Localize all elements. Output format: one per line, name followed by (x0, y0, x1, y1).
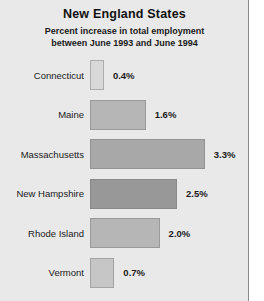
bar-category-label: New Hampshire (0, 174, 84, 214)
chart-subtitle-line-1: Percent increase in total employment (0, 26, 249, 38)
bar-category-label: Maine (0, 95, 84, 135)
bar-value-label: 3.3% (214, 134, 236, 174)
bar-value-label: 0.7% (123, 253, 145, 293)
bar-value-label: 2.0% (169, 213, 191, 253)
bar-rect (90, 60, 104, 90)
bar-track: 0.7% (90, 253, 249, 293)
bar-row: New Hampshire2.5% (0, 174, 249, 214)
bar-track: 2.5% (90, 174, 249, 214)
bar-track: 0.4% (90, 55, 249, 95)
bar-value-label: 0.4% (113, 55, 135, 95)
bar-rect (90, 100, 146, 130)
bar-track: 1.6% (90, 95, 249, 135)
bar-track: 2.0% (90, 213, 249, 253)
bar-value-label: 1.6% (155, 95, 177, 135)
bar-rect (90, 139, 205, 169)
chart-subtitle-line-2: between June 1993 and June 1994 (0, 38, 249, 50)
bar-category-label: Massachusetts (0, 134, 84, 174)
bar-row: Rhode Island2.0% (0, 213, 249, 253)
bar-category-label: Vermont (0, 253, 84, 293)
bar-chart-plot-area: Connecticut0.4%Maine1.6%Massachusetts3.3… (0, 55, 249, 295)
bar-category-label: Connecticut (0, 55, 84, 95)
bar-category-label: Rhode Island (0, 213, 84, 253)
bar-row: Connecticut0.4% (0, 55, 249, 95)
bar-rect (90, 179, 177, 209)
bar-rect (90, 258, 114, 288)
bar-row: Massachusetts3.3% (0, 134, 249, 174)
bar-row: Vermont0.7% (0, 253, 249, 293)
chart-panel: New England States Percent increase in t… (0, 0, 249, 301)
chart-title: New England States (0, 7, 249, 21)
bar-value-label: 2.5% (186, 174, 208, 214)
bar-row: Maine1.6% (0, 95, 249, 135)
bar-rect (90, 218, 160, 248)
bar-track: 3.3% (90, 134, 249, 174)
chart-subtitle: Percent increase in total employment bet… (0, 26, 249, 49)
